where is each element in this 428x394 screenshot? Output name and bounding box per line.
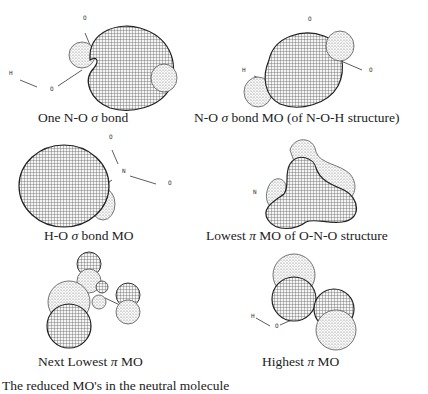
panel-ho-sigma-bond: O N O H-O σ bond MO bbox=[0, 130, 214, 250]
caption: Next Lowest π MO bbox=[38, 354, 143, 370]
caption: One N-O σ bond bbox=[38, 110, 128, 126]
atom-label-o: O bbox=[168, 179, 172, 186]
orbital-plot-2 bbox=[214, 0, 428, 125]
footer-paragraph: The reduced MO's in the neutral molecule bbox=[2, 378, 229, 394]
atom-label-o: O bbox=[275, 322, 279, 329]
orbital-plot-1 bbox=[0, 0, 214, 125]
panel-lowest-pi-mo: N Lowest π MO of O-N-O structure bbox=[214, 130, 428, 250]
atom-label-h: H bbox=[251, 312, 255, 319]
caption: N-O σ bond MO (of N-O-H structure) bbox=[194, 110, 399, 126]
panel-next-lowest-pi-mo: Next Lowest π MO bbox=[0, 250, 214, 375]
caption: Lowest π MO of O-N-O structure bbox=[206, 228, 388, 244]
atom-label-h: H bbox=[9, 69, 13, 76]
atom-label-n: N bbox=[253, 188, 257, 195]
panel-one-no-sigma-bond: O H O One N-O σ bond bbox=[0, 0, 214, 125]
atom-label-o: O bbox=[109, 133, 113, 140]
panel-highest-pi-mo: H O Highest π MO bbox=[214, 250, 428, 375]
caption: H-O σ bond MO bbox=[44, 228, 134, 244]
atom-label-o: O bbox=[308, 15, 312, 22]
panel-no-sigma-bond-noh: O H O N-O σ bond MO (of N-O-H structure) bbox=[214, 0, 428, 125]
atom-label-o: O bbox=[50, 85, 54, 92]
caption: Highest π MO bbox=[262, 354, 339, 370]
atom-label-n: N bbox=[122, 167, 126, 174]
atom-label-h: H bbox=[242, 66, 246, 73]
atom-label-o: O bbox=[369, 66, 373, 73]
atom-label-o: O bbox=[83, 14, 87, 21]
